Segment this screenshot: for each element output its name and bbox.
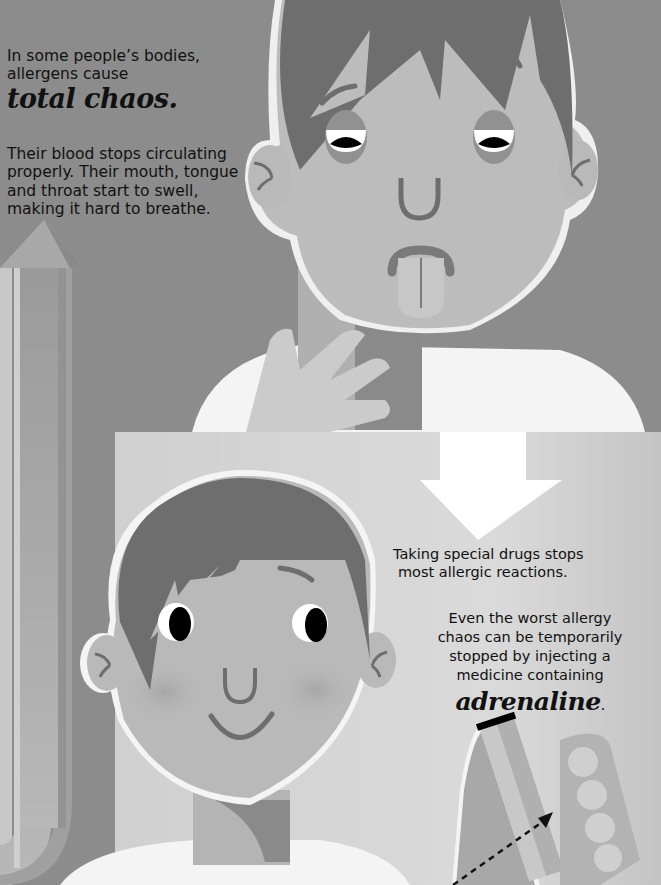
adrenaline-heading: adrenaline. [410,685,650,722]
drugs-paragraph: Taking special drugs stops most allergic… [393,545,623,581]
symptoms-line: Their blood stops circulating [7,145,247,163]
illustration-canvas [0,0,661,885]
symptoms-line: properly. Their mouth, tongue [7,163,247,181]
intro-line-2: allergens cause [7,65,247,83]
symptoms-paragraph: Their blood stops circulating properly. … [7,145,247,218]
adrenaline-period: . [601,697,605,713]
symptoms-line: making it hard to breathe. [7,200,247,218]
adrenaline-line: Even the worst allergy [410,609,650,628]
drugs-line: Taking special drugs stops [393,545,623,563]
total-chaos-heading: total chaos. [7,82,247,116]
adrenaline-line: medicine containing [410,666,650,685]
intro-text: In some people’s bodies, allergens cause… [7,47,247,116]
symptoms-line: and throat start to swell, [7,182,247,200]
adrenaline-word: adrenaline [455,687,600,716]
adrenaline-paragraph: Even the worst allergy chaos can be temp… [410,609,650,722]
drugs-line: most allergic reactions. [393,563,623,581]
allergy-book-page: In some people’s bodies, allergens cause… [0,0,661,885]
adrenaline-line: stopped by injecting a [410,647,650,666]
intro-line-1: In some people’s bodies, [7,47,247,65]
adrenaline-line: chaos can be temporarily [410,628,650,647]
